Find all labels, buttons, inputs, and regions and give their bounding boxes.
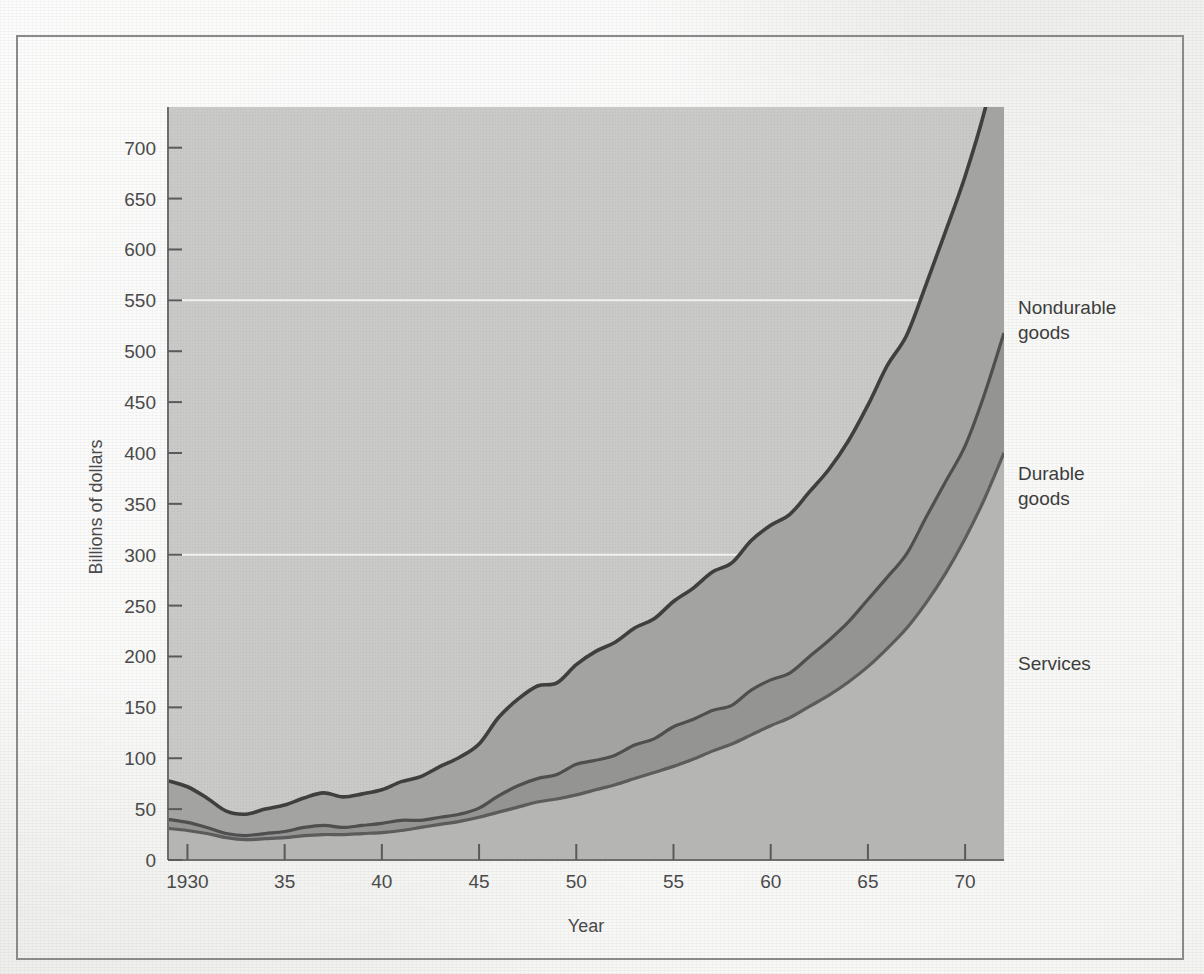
series-label-durable-goods-line2: goods: [1018, 488, 1070, 509]
series-label-nondurable-goods-line2: goods: [1018, 322, 1070, 343]
y-tick-label-550: 550: [124, 290, 156, 311]
series-label-nondurable-goods-line1: Nondurable: [1018, 297, 1116, 318]
x-tick-label-1945: 45: [468, 871, 489, 892]
y-tick-label-450: 450: [124, 392, 156, 413]
y-axis-title: Billions of dollars: [86, 439, 106, 574]
y-tick-label-600: 600: [124, 239, 156, 260]
series-label-durable-goods-line1: Durable: [1018, 463, 1085, 484]
x-tick-label-1955: 55: [663, 871, 684, 892]
y-tick-label-0: 0: [145, 850, 156, 871]
y-tick-label-700: 700: [124, 138, 156, 159]
x-tick-label-1930: 1930: [166, 871, 208, 892]
y-tick-label-150: 150: [124, 697, 156, 718]
chart-figure: 0501001502002503003504004505005506006507…: [18, 37, 1182, 958]
y-tick-label-500: 500: [124, 341, 156, 362]
y-tick-label-300: 300: [124, 545, 156, 566]
x-tick-label-1950: 50: [566, 871, 587, 892]
y-tick-label-50: 50: [135, 799, 156, 820]
y-tick-label-250: 250: [124, 596, 156, 617]
area-chart: 0501001502002503003504004505005506006507…: [18, 37, 1186, 958]
x-tick-label-1970: 70: [955, 871, 976, 892]
figure-frame: 0501001502002503003504004505005506006507…: [16, 35, 1184, 960]
y-tick-label-400: 400: [124, 443, 156, 464]
x-axis-title: Year: [568, 916, 604, 936]
x-tick-label-1965: 65: [857, 871, 878, 892]
y-tick-label-100: 100: [124, 748, 156, 769]
y-tick-label-650: 650: [124, 189, 156, 210]
x-tick-label-1935: 35: [274, 871, 295, 892]
series-label-services: Services: [1018, 653, 1091, 674]
x-tick-label-1940: 40: [371, 871, 392, 892]
y-tick-label-200: 200: [124, 646, 156, 667]
series-labels: Nondurable goods Durable goods Services: [1018, 297, 1116, 674]
y-tick-label-350: 350: [124, 494, 156, 515]
x-tick-label-1960: 60: [760, 871, 781, 892]
